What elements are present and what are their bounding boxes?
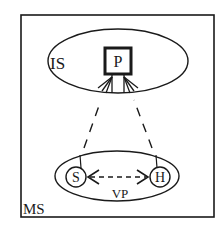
connection-h-to-p (134, 100, 152, 148)
connection-s-to-p (84, 100, 101, 148)
diagram-canvas: IS P S H VP MS (0, 0, 219, 233)
p-arrowhead-left (98, 77, 112, 93)
s-label: S (72, 170, 80, 185)
ms-label: MS (23, 201, 45, 217)
s-stem (80, 155, 81, 168)
p-arrowhead-right (124, 77, 138, 93)
vp-label: VP (112, 186, 129, 201)
h-label: H (155, 170, 165, 185)
is-label: IS (50, 54, 65, 73)
p-label: P (114, 53, 123, 70)
